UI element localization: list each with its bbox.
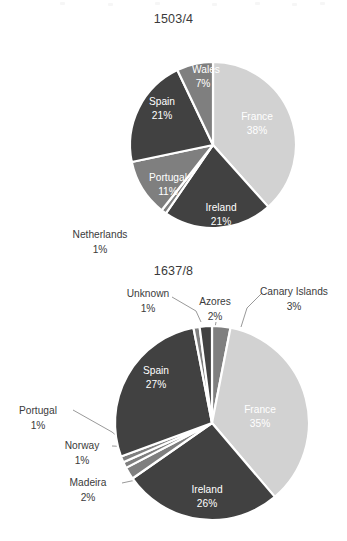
slice-name-azores: Azores: [199, 296, 231, 307]
slice-percent-norway: 1%: [75, 455, 90, 466]
leader-line-unknown: [172, 297, 201, 322]
slice-percent-unknown: 1%: [141, 303, 156, 314]
slice-percent-spain: 27%: [146, 379, 166, 390]
slice-name-unknown: Unknown: [127, 288, 169, 299]
slice-percent-france: 35%: [250, 418, 270, 429]
pie-charts-figure: 1503/4 1637/8 France38%Ireland21%Netherl…: [0, 0, 347, 541]
slice-percent-madeira: 2%: [81, 492, 96, 503]
slice-name-norway: Norway: [65, 440, 100, 451]
slice-name-madeira: Madeira: [70, 477, 107, 488]
slice-percent-ireland: 26%: [197, 498, 217, 509]
slice-name-ireland: Ireland: [191, 484, 222, 495]
slice-name-france: France: [244, 404, 276, 415]
slice-name-canary-islands: Canary Islands: [260, 286, 328, 297]
slice-percent-canary-islands: 3%: [287, 301, 302, 312]
slice-name-spain: Spain: [143, 365, 169, 376]
slice-percent-portugal: 1%: [31, 420, 46, 431]
pie-chart-1637-8: Canary Islands3%France35%Ireland26%Madei…: [0, 0, 347, 541]
leader-line-canary-islands: [241, 293, 262, 327]
slice-percent-azores: 2%: [208, 311, 223, 322]
slice-name-portugal: Portugal: [19, 405, 57, 416]
